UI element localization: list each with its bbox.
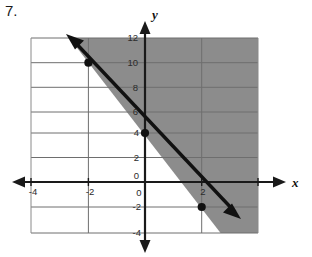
- y-tick-label-10: 10: [127, 57, 138, 68]
- y-tick-label-neg4: -4: [133, 227, 141, 238]
- x-axis-label: x: [291, 175, 299, 190]
- arrow-up-icon: [140, 21, 151, 34]
- y-axis-label: y: [150, 7, 158, 22]
- x-tick-label-2: 2: [200, 186, 205, 197]
- coordinate-graph: y x 12 10 8 6 4 2 0 -2 -4 -4 -2 0 2: [0, 0, 312, 257]
- arrow-left-icon: [12, 177, 25, 188]
- y-tick-label-4: 4: [134, 127, 139, 138]
- point-marker-icon: [198, 203, 206, 211]
- y-tick-label-0: 0: [134, 170, 139, 181]
- x-tick-label-neg2: -2: [86, 186, 94, 197]
- arrow-down-icon: [140, 240, 151, 253]
- y-tick-label-6: 6: [133, 106, 138, 117]
- graph-problem-page: 7.: [0, 0, 312, 257]
- arrow-right-icon: [273, 177, 286, 188]
- y-tick-label-12: 12: [127, 32, 138, 43]
- y-tick-label-neg2: -2: [133, 201, 141, 212]
- point-marker-icon: [141, 129, 149, 137]
- y-tick-label-2: 2: [134, 152, 139, 163]
- x-tick-label-neg4: -4: [29, 186, 37, 197]
- x-tick-label-0: 0: [136, 187, 141, 198]
- y-tick-label-8: 8: [133, 82, 138, 93]
- point-marker-icon: [84, 59, 92, 67]
